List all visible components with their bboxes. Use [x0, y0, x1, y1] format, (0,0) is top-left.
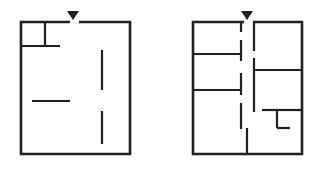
- left-floorplan-inner-walls: [20, 21, 102, 144]
- left-floorplan-panel: [20, 11, 131, 155]
- floorplan-figure: [0, 0, 323, 171]
- floorplan-canvas: [0, 0, 323, 171]
- right-floorplan-entry-marker-triangle-down: [241, 11, 253, 20]
- right-floorplan-inner-walls: [192, 21, 303, 155]
- left-floorplan-outer-walls: [20, 21, 131, 155]
- right-floorplan-panel: [192, 11, 303, 155]
- left-floorplan-entry-marker-triangle-down: [67, 11, 79, 20]
